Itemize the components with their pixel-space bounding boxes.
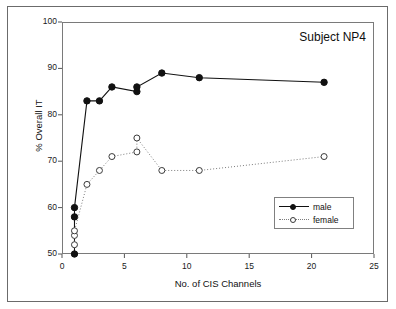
data-point-female [321, 154, 327, 160]
chart-legend: male female [274, 197, 354, 229]
open-circle-icon [290, 217, 296, 223]
data-point-male [159, 70, 165, 76]
x-axis-title: No. of CIS Channels [62, 278, 374, 289]
data-point-female [71, 242, 77, 248]
y-tick-label: 60 [38, 202, 57, 212]
y-axis-title: % Overall IT [33, 71, 44, 181]
legend-label-female: female [313, 215, 339, 225]
x-tick-label: 25 [362, 261, 386, 271]
x-tick-label: 10 [175, 261, 199, 271]
legend-entry-male: male [279, 200, 331, 214]
y-tick-label: 100 [38, 16, 57, 26]
data-point-male [134, 84, 140, 90]
y-tick-label: 50 [38, 248, 57, 258]
data-point-male [71, 251, 77, 257]
data-point-male [96, 98, 102, 104]
x-tick-label: 5 [112, 261, 136, 271]
data-point-male [321, 79, 327, 85]
legend-label-male: male [313, 202, 331, 212]
chart-title: Subject NP4 [299, 30, 366, 44]
data-point-female [196, 167, 202, 173]
x-tick-label: 20 [300, 261, 324, 271]
filled-circle-icon [290, 204, 296, 210]
data-point-male [71, 214, 77, 220]
data-point-female [134, 149, 140, 155]
data-point-female [84, 181, 90, 187]
legend-sample-female [279, 214, 309, 226]
data-point-female [134, 135, 140, 141]
x-tick-label: 15 [237, 261, 261, 271]
legend-sample-male [279, 201, 309, 213]
data-point-male [84, 98, 90, 104]
data-point-male [196, 74, 202, 80]
data-point-female [159, 167, 165, 173]
data-point-female [109, 154, 115, 160]
legend-entry-female: female [279, 213, 339, 227]
data-point-female [96, 167, 102, 173]
chart-figure: 5060708090100 0510152025 % Overall IT No… [0, 0, 396, 309]
data-point-male [71, 204, 77, 210]
data-point-female [71, 228, 77, 234]
data-point-male [109, 84, 115, 90]
x-tick-label: 0 [50, 261, 74, 271]
data-series-layer [71, 70, 327, 257]
